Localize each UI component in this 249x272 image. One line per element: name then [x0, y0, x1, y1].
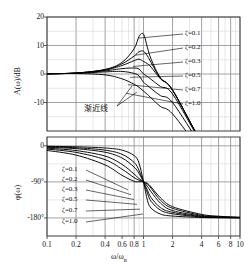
- magnitude-y-tick-1: 10: [22, 41, 44, 50]
- phase-y-axis-label: φ(ω): [13, 185, 22, 200]
- phase-y-tick-2: -180°: [14, 213, 44, 222]
- magnitude-y-tick-2: 0: [22, 69, 44, 78]
- legend-magnitude-3: ζ=0.5: [185, 71, 201, 79]
- legend-phase-2: ζ=0.3: [62, 185, 78, 193]
- legend-magnitude-5: ζ=1.0: [185, 99, 201, 107]
- legend-phase-5: ζ=1.0: [62, 217, 78, 225]
- x-tick-0: 0.1: [38, 240, 56, 249]
- legend-phase-4: ζ=0.7: [62, 206, 78, 214]
- x-tick-1: 0.2: [67, 240, 85, 249]
- legend-magnitude-2: ζ=0.3: [185, 57, 201, 65]
- magnitude-y-tick-3: -10: [22, 98, 44, 107]
- x-tick-5: 1: [135, 240, 153, 249]
- x-tick-7: 4: [193, 240, 211, 249]
- x-tick-6: 2: [164, 240, 182, 249]
- x-tick-10: 10: [231, 240, 249, 249]
- x-axis-label: ω/ωn: [111, 252, 127, 263]
- legend-phase-3: ζ=0.5: [62, 195, 78, 203]
- legend-phase-0: ζ=0.1: [62, 165, 78, 173]
- asymptote-annotation: 渐近线: [84, 102, 108, 113]
- bode-plot-figure: A(ω)/dB φ(ω) ω/ωn 渐近线 20100-100-90°-180°…: [0, 0, 249, 272]
- asymptote-annotation-text: 渐近线: [84, 104, 108, 113]
- x-axis-label-subscript: n: [124, 257, 127, 263]
- legend-magnitude-0: ζ=0.1: [185, 29, 201, 37]
- magnitude-y-tick-0: 20: [22, 12, 44, 21]
- x-axis-label-text: ω/ω: [111, 252, 124, 261]
- legend-phase-1: ζ=0.2: [62, 175, 78, 183]
- legend-magnitude-4: ζ=0.7: [185, 85, 201, 93]
- magnitude-y-axis-label: A(ω)/dB: [13, 67, 22, 95]
- phase-y-axis-label-text: φ(ω): [13, 185, 22, 200]
- phase-y-tick-0: 0: [14, 141, 44, 150]
- phase-y-tick-1: -90°: [14, 177, 44, 186]
- legend-magnitude-1: ζ=0.2: [185, 43, 201, 51]
- magnitude-y-axis-label-text: A(ω)/dB: [13, 67, 22, 95]
- x-tick-2: 0.4: [96, 240, 114, 249]
